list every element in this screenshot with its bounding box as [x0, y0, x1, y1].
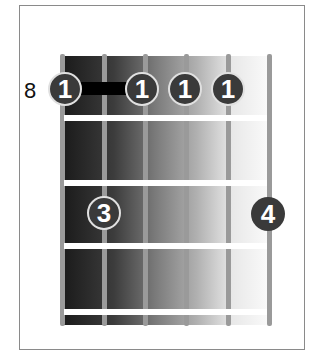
string-6: [267, 54, 272, 326]
finger-dot: 4: [251, 197, 285, 231]
finger-dot: 1: [168, 72, 202, 106]
fret-line-2: [64, 180, 267, 186]
fret-line-1: [64, 115, 267, 121]
finger-dot: 1: [125, 72, 159, 106]
finger-dot: 1: [211, 72, 245, 106]
finger-dot: 3: [87, 196, 121, 230]
start-fret-label: 8: [24, 78, 36, 104]
fret-line-4: [64, 309, 267, 315]
finger-dot: 1: [48, 72, 82, 106]
fret-line-3: [64, 243, 267, 249]
